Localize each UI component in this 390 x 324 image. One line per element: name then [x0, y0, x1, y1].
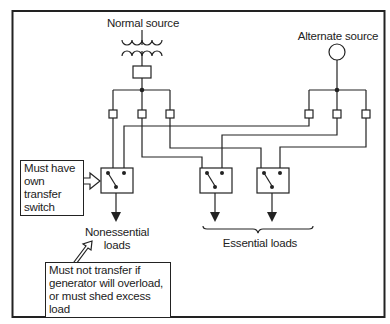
transfer-switch-essential-1: [200, 168, 232, 193]
normal-breaker-main: [133, 66, 151, 78]
essential-loads-brace: [203, 226, 313, 233]
nonessential-line2: loads: [84, 239, 150, 252]
note-line: switch: [24, 201, 80, 214]
transfer-switch-nonessential: [101, 168, 133, 193]
normal-breaker-2: [138, 110, 146, 118]
nonessential-line1: Nonessential: [84, 226, 150, 239]
note-line: or must shed excess load: [49, 290, 167, 316]
alternate-breaker-2: [333, 110, 341, 118]
alternate-breaker-1: [305, 110, 313, 118]
alternate-breaker-3: [362, 110, 370, 118]
note-line: generator will overload,: [49, 277, 167, 290]
note-line: Must have: [24, 162, 80, 175]
essential-loads-label: Essential loads: [212, 237, 308, 250]
note-must-not-transfer: Must not transfer if generator will over…: [45, 262, 171, 318]
note-line: own transfer: [24, 175, 80, 201]
generator-icon: [329, 44, 345, 60]
transfer-switch-essential-2: [257, 168, 289, 193]
normal-breaker-3: [166, 110, 174, 118]
normal-source-label: Normal source: [105, 17, 181, 30]
note-line: Must not transfer if: [49, 264, 167, 277]
transformer-icon: [122, 30, 162, 66]
alternate-source-label: Alternate source: [295, 30, 381, 43]
note-own-transfer-switch: Must have own transfer switch: [20, 160, 84, 216]
nonessential-loads-label: Nonessential loads: [84, 226, 150, 252]
normal-breaker-1: [109, 110, 117, 118]
